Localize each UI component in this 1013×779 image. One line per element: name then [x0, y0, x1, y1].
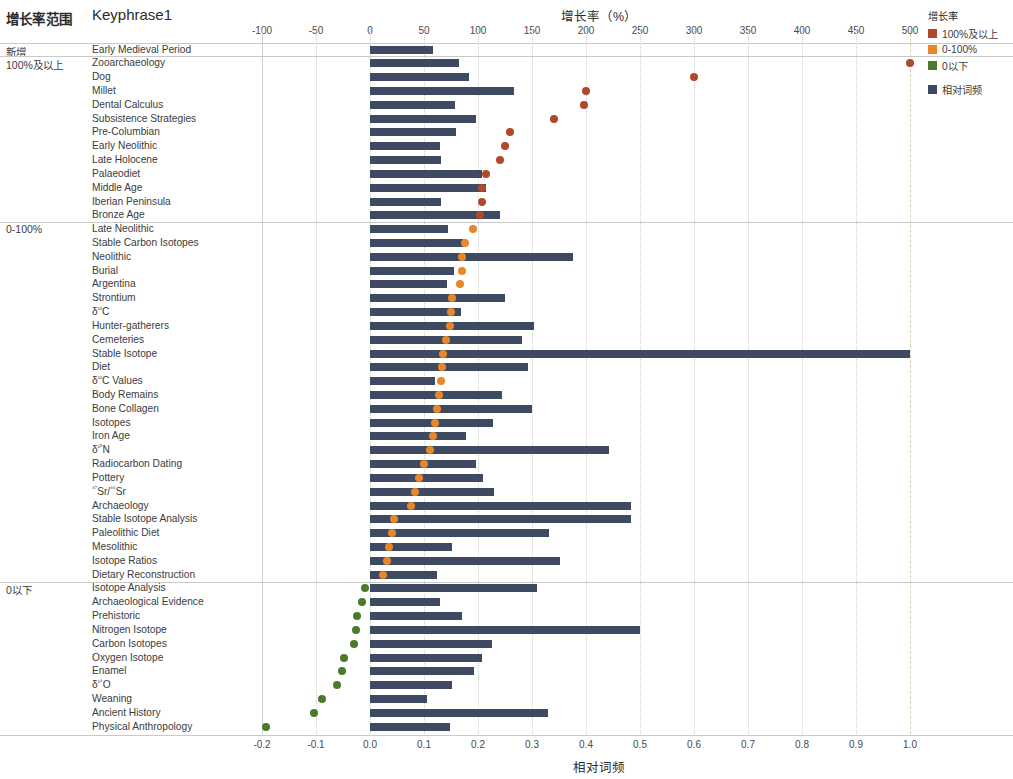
dot-growth-rate[interactable] [350, 640, 358, 648]
dot-growth-rate[interactable] [352, 626, 360, 634]
bar-relative-frequency[interactable] [370, 280, 447, 288]
legend-item-bar[interactable]: 相对词频 [928, 82, 1013, 97]
bar-relative-frequency[interactable] [370, 529, 549, 537]
keyphrase-label[interactable]: Late Neolithic [92, 224, 154, 234]
keyphrase-label[interactable]: Burial [92, 266, 118, 276]
dot-growth-rate[interactable] [442, 336, 450, 344]
dot-growth-rate[interactable] [582, 87, 590, 95]
dot-growth-rate[interactable] [550, 115, 558, 123]
bar-relative-frequency[interactable] [370, 695, 427, 703]
keyphrase-label[interactable]: Iron Age [92, 431, 130, 441]
dot-growth-rate[interactable] [361, 584, 369, 592]
keyphrase-label[interactable]: Ancient History [92, 708, 161, 718]
bar-relative-frequency[interactable] [370, 46, 433, 54]
dot-growth-rate[interactable] [439, 350, 447, 358]
dot-growth-rate[interactable] [358, 598, 366, 606]
keyphrase-label[interactable]: Stable Carbon Isotopes [92, 238, 198, 248]
keyphrase-label[interactable]: ⁸⁷Sr/⁸⁶Sr [92, 487, 126, 497]
bar-relative-frequency[interactable] [370, 543, 452, 551]
dot-growth-rate[interactable] [461, 239, 469, 247]
dot-growth-rate[interactable] [340, 654, 348, 662]
dot-growth-rate[interactable] [458, 253, 466, 261]
bar-relative-frequency[interactable] [370, 584, 537, 592]
dot-growth-rate[interactable] [388, 529, 396, 537]
keyphrase-label[interactable]: δ¹³C Values [92, 376, 143, 386]
bar-relative-frequency[interactable] [370, 239, 463, 247]
keyphrase-label[interactable]: Pre-Columbian [92, 127, 160, 137]
dot-growth-rate[interactable] [478, 198, 486, 206]
bar-relative-frequency[interactable] [370, 115, 476, 123]
dot-growth-rate[interactable] [385, 543, 393, 551]
dot-growth-rate[interactable] [338, 667, 346, 675]
bar-relative-frequency[interactable] [370, 446, 609, 454]
keyphrase-label[interactable]: Paleolithic Diet [92, 528, 159, 538]
keyphrase-label[interactable]: Body Remains [92, 390, 158, 400]
dot-growth-rate[interactable] [407, 502, 415, 510]
keyphrase-label[interactable]: Late Holocene [92, 155, 158, 165]
keyphrase-label[interactable]: Stable Isotope [92, 349, 157, 359]
bar-relative-frequency[interactable] [370, 225, 448, 233]
bar-relative-frequency[interactable] [370, 267, 454, 275]
bar-relative-frequency[interactable] [370, 294, 505, 302]
dot-growth-rate[interactable] [438, 363, 446, 371]
keyphrase-label[interactable]: Zooarchaeology [92, 58, 165, 68]
dot-growth-rate[interactable] [482, 170, 490, 178]
dot-growth-rate[interactable] [379, 571, 387, 579]
dot-growth-rate[interactable] [390, 515, 398, 523]
bar-relative-frequency[interactable] [370, 377, 435, 385]
dot-growth-rate[interactable] [476, 211, 484, 219]
bar-relative-frequency[interactable] [370, 654, 482, 662]
keyphrase-label[interactable]: Early Medieval Period [92, 45, 191, 55]
keyphrase-label[interactable]: Weaning [92, 694, 132, 704]
keyphrase-label[interactable]: Bone Collagen [92, 404, 159, 414]
bar-relative-frequency[interactable] [370, 128, 456, 136]
keyphrase-label[interactable]: Archaeology [92, 501, 149, 511]
keyphrase-label[interactable]: Strontium [92, 293, 136, 303]
keyphrase-label[interactable]: Enamel [92, 666, 127, 676]
keyphrase-label[interactable]: Dog [92, 72, 111, 82]
bar-relative-frequency[interactable] [370, 156, 441, 164]
keyphrase-label[interactable]: Isotope Ratios [92, 556, 157, 566]
keyphrase-label[interactable]: Argentina [92, 279, 136, 289]
keyphrase-label[interactable]: Early Neolithic [92, 141, 157, 151]
bar-relative-frequency[interactable] [370, 184, 486, 192]
bar-relative-frequency[interactable] [370, 59, 459, 67]
legend-item[interactable]: 0以下 [928, 58, 1013, 73]
dot-growth-rate[interactable] [506, 128, 514, 136]
bar-relative-frequency[interactable] [370, 667, 474, 675]
bar-relative-frequency[interactable] [370, 198, 441, 206]
dot-growth-rate[interactable] [580, 101, 588, 109]
keyphrase-label[interactable]: Diet [92, 362, 110, 372]
dot-growth-rate[interactable] [458, 267, 466, 275]
dot-growth-rate[interactable] [690, 73, 698, 81]
dot-growth-rate[interactable] [431, 419, 439, 427]
bar-relative-frequency[interactable] [370, 405, 532, 413]
bar-relative-frequency[interactable] [370, 142, 440, 150]
bar-relative-frequency[interactable] [370, 612, 462, 620]
dot-growth-rate[interactable] [353, 612, 361, 620]
keyphrase-label[interactable]: Dietary Reconstruction [92, 570, 195, 580]
keyphrase-label[interactable]: Mesolithic [92, 542, 137, 552]
keyphrase-label[interactable]: Cemeteries [92, 335, 144, 345]
bar-relative-frequency[interactable] [370, 73, 469, 81]
keyphrase-label[interactable]: Millet [92, 86, 116, 96]
dot-growth-rate[interactable] [262, 723, 270, 731]
dot-growth-rate[interactable] [415, 474, 423, 482]
dot-growth-rate[interactable] [426, 446, 434, 454]
dot-growth-rate[interactable] [446, 322, 454, 330]
dot-growth-rate[interactable] [478, 184, 486, 192]
keyphrase-label[interactable]: Stable Isotope Analysis [92, 514, 197, 524]
bar-relative-frequency[interactable] [370, 515, 631, 523]
keyphrase-label[interactable]: Dental Calculus [92, 100, 163, 110]
keyphrase-label[interactable]: Neolithic [92, 252, 131, 262]
keyphrase-label[interactable]: Bronze Age [92, 210, 145, 220]
dot-growth-rate[interactable] [318, 695, 326, 703]
legend-item[interactable]: 0-100% [928, 44, 1013, 55]
dot-growth-rate[interactable] [333, 681, 341, 689]
bar-relative-frequency[interactable] [370, 598, 440, 606]
keyphrase-label[interactable]: δ¹⁸O [92, 680, 111, 690]
bar-relative-frequency[interactable] [370, 557, 560, 565]
dot-growth-rate[interactable] [448, 294, 456, 302]
keyphrase-label[interactable]: Subsistence Strategies [92, 114, 196, 124]
keyphrase-label[interactable]: Isotopes [92, 418, 131, 428]
